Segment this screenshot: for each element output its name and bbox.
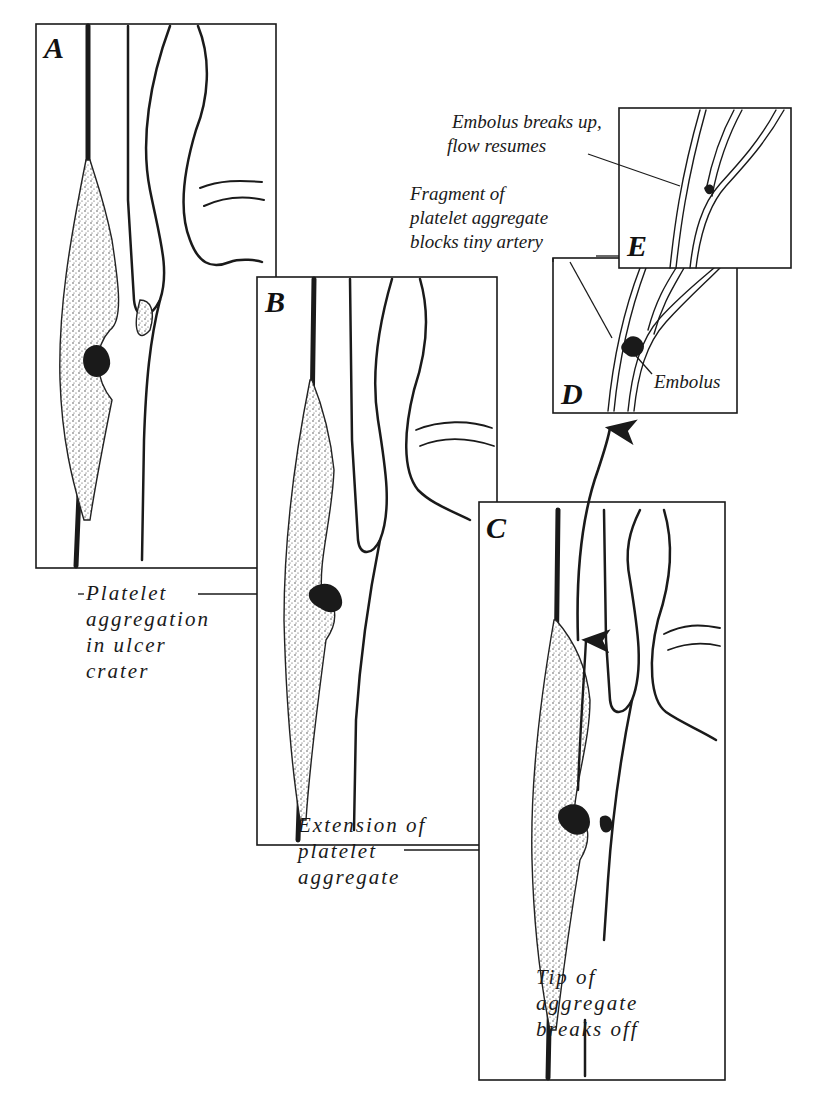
caption-d-line-2: platelet aggregate xyxy=(408,207,548,228)
caption-a-line-2: aggregation xyxy=(86,607,210,631)
panel-b-letter: B xyxy=(264,285,285,318)
caption-b-line-3: aggregate xyxy=(298,865,400,889)
caption-d-line-1: Fragment of xyxy=(409,183,507,204)
caption-b-line-2: platelet xyxy=(296,839,377,863)
panel-e-letter: E xyxy=(626,229,647,262)
caption-c-line-1: Tip of xyxy=(536,965,598,989)
panel-d-letter: D xyxy=(560,377,583,410)
panel-b: B xyxy=(257,277,497,845)
caption-c-line-2: aggregate xyxy=(536,991,638,1015)
caption-c-line-3: breaks off xyxy=(536,1017,640,1041)
caption-d-line-3: blocks tiny artery xyxy=(410,231,544,252)
caption-b-line-1: Extension of xyxy=(297,813,428,837)
embolus-sequence-diagram: A B C xyxy=(0,0,821,1106)
caption-a: Platelet aggregation in ulcer crater xyxy=(78,581,257,683)
panel-c-letter: C xyxy=(486,511,507,544)
panel-a: A xyxy=(36,24,276,568)
caption-a-line-1: Platelet xyxy=(85,581,167,605)
panel-a-letter: A xyxy=(42,31,64,64)
caption-e-line-1: Embolus breaks up, xyxy=(451,111,602,132)
caption-e-line-2: flow resumes xyxy=(447,135,546,156)
panel-d-embolus-label: Embolus xyxy=(653,371,721,392)
caption-a-line-4: crater xyxy=(86,659,149,683)
panel-e: E xyxy=(619,108,791,268)
caption-a-line-3: in ulcer xyxy=(86,633,167,657)
panel-a-branch-lining xyxy=(136,300,152,335)
